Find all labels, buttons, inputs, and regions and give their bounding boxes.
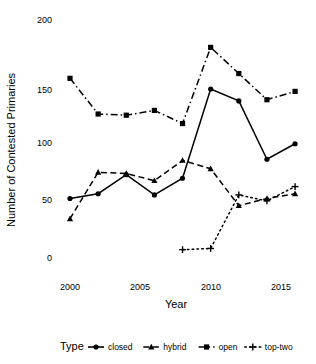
data-point-open-2012 xyxy=(236,71,241,76)
data-point-open-2008 xyxy=(180,121,185,126)
data-point-closed-2014 xyxy=(264,157,269,162)
data-point-closed-2002 xyxy=(96,191,101,196)
y-tick-label: 200 xyxy=(37,15,52,25)
legend-title: Type xyxy=(60,340,84,352)
chart-background xyxy=(0,0,316,364)
legend-label-top-two[interactable]: top-two xyxy=(265,342,293,352)
x-tick-label: 2000 xyxy=(60,282,80,292)
x-tick-label: 2010 xyxy=(201,282,221,292)
data-point-closed-2006 xyxy=(152,192,157,197)
legend-label-hybrid[interactable]: hybrid xyxy=(163,342,186,352)
data-point-closed-2008 xyxy=(180,176,185,181)
data-point-open-2000 xyxy=(67,76,72,81)
data-point-open-2010 xyxy=(208,45,213,50)
y-tick-label: 100 xyxy=(37,138,52,148)
legend-label-closed[interactable]: closed xyxy=(108,342,133,352)
x-tick-label: 2015 xyxy=(271,282,291,292)
y-tick-label: 150 xyxy=(37,85,52,95)
data-point-open-2006 xyxy=(152,108,157,113)
data-point-closed-2016 xyxy=(292,141,297,146)
y-tick-label: 0 xyxy=(47,253,52,263)
data-point-closed-2000 xyxy=(67,196,72,201)
x-tick-label: 2005 xyxy=(130,282,150,292)
data-point-closed-2012 xyxy=(236,98,241,103)
data-point-open-2016 xyxy=(292,89,297,94)
legend-marker-circle-icon xyxy=(93,344,98,349)
data-point-closed-2010 xyxy=(208,86,213,91)
legend-marker-square-icon xyxy=(204,344,209,349)
data-point-open-2004 xyxy=(124,113,129,118)
legend-label-open[interactable]: open xyxy=(219,342,238,352)
data-point-open-2014 xyxy=(264,97,269,102)
chart-container: 200 150 100 50 0 2000 2005 2010 2015 Yea… xyxy=(0,0,316,364)
data-point-open-2002 xyxy=(96,111,101,116)
line-chart: 200 150 100 50 0 2000 2005 2010 2015 Yea… xyxy=(0,0,316,364)
y-tick-label: 50 xyxy=(42,195,52,205)
x-axis-title: Year xyxy=(165,298,188,310)
y-axis-title: Number of Contested Primaries xyxy=(5,72,17,227)
